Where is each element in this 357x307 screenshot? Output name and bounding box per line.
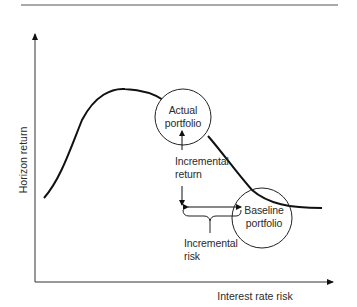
incremental-return-label-line1: Incremental [175,155,229,168]
baseline-portfolio-label-line1: Baseline [236,204,292,217]
diagram-canvas [0,0,357,307]
actual-portfolio-label: Actual portfolio [158,104,208,130]
x-axis-label: Interest rate risk [217,290,292,302]
baseline-portfolio-label-line2: portfolio [236,217,292,230]
baseline-portfolio-label: Baseline portfolio [236,204,292,230]
actual-portfolio-label-line1: Actual [158,104,208,117]
incremental-return-label: Incremental return [175,155,229,181]
actual-portfolio-label-line2: portfolio [158,117,208,130]
incremental-risk-label: Incremental risk [184,237,238,263]
incremental-risk-label-line1: Incremental [184,237,238,250]
incremental-risk-label-line2: risk [184,250,238,263]
y-axis-label: Horizon return [17,127,29,194]
incremental-return-label-line2: return [175,168,229,181]
